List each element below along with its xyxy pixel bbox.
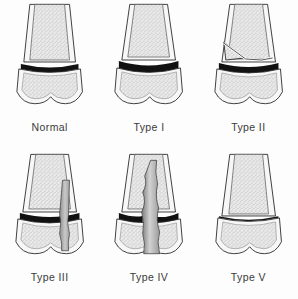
bone-illustration-type-4 [99, 150, 198, 270]
panel-type-5[interactable]: Type V [199, 150, 298, 299]
panel-type-4[interactable]: Type IV [99, 150, 198, 299]
epiphysis-type-2 [215, 69, 283, 104]
epiphysis-type-1 [115, 68, 183, 104]
shaft-normal [24, 4, 76, 62]
epiphysis-type-3 [16, 218, 84, 253]
panel-grid: Normal [0, 0, 298, 299]
panel-label-type-5: Type V [231, 271, 266, 283]
panel-label-type-1: Type I [133, 121, 164, 133]
epiphysis-normal [17, 69, 83, 104]
panel-label-type-2: Type II [231, 121, 265, 133]
bone-illustration-type-1 [99, 0, 198, 120]
bone-illustration-type-5 [199, 150, 298, 270]
salter-harris-figure: Normal [0, 0, 298, 299]
panel-type-1[interactable]: Type I [99, 0, 198, 150]
bone-illustration-type-2 [199, 0, 298, 120]
panel-label-normal: Normal [32, 121, 68, 133]
panel-type-2[interactable]: Type II [199, 0, 298, 150]
panel-type-3[interactable]: Type III [0, 150, 99, 299]
panel-label-type-4: Type IV [130, 271, 168, 283]
panel-label-type-3: Type III [31, 271, 69, 283]
shaft-type-1 [122, 4, 176, 60]
bone-illustration-type-3 [0, 150, 99, 270]
epiphysis-type-5 [216, 217, 282, 253]
panel-normal[interactable]: Normal [0, 0, 99, 150]
bone-illustration-normal [0, 0, 99, 120]
shaft-type-5 [222, 154, 276, 216]
